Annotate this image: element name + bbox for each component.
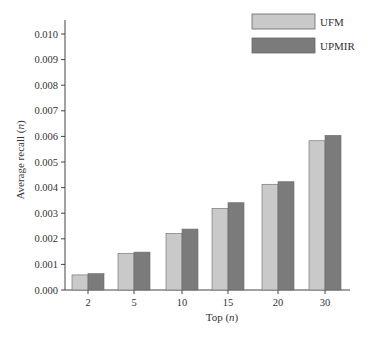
bar-ufm-15 [212, 208, 228, 290]
bar-ufm-2 [72, 275, 88, 290]
bar-upmir-20 [278, 182, 294, 290]
bar-upmir-15 [228, 203, 244, 290]
bar-ufm-20 [262, 184, 278, 290]
y-tick-label: 0.004 [34, 182, 58, 193]
legend-label: UPMIR [320, 40, 356, 52]
chart-canvas: 0.0000.0010.0020.0030.0040.0050.0060.007… [0, 0, 368, 338]
y-axis-label: Average recall (n) [14, 120, 27, 200]
bar-upmir-10 [182, 229, 198, 290]
bar-upmir-5 [134, 252, 150, 290]
y-tick-label: 0.001 [34, 259, 58, 270]
legend-label: UFM [320, 16, 344, 28]
bar-ufm-30 [309, 141, 325, 290]
bar-upmir-30 [325, 135, 341, 290]
bar-ufm-10 [166, 233, 182, 290]
legend: UFMUPMIR [252, 14, 356, 53]
x-tick-label: 5 [131, 297, 136, 308]
x-axis: 2510152030 [65, 290, 350, 308]
x-axis-label: Top (n) [206, 311, 239, 324]
y-tick-label: 0.006 [34, 131, 58, 142]
y-tick-label: 0.010 [34, 29, 58, 40]
bar-upmir-2 [88, 274, 104, 290]
x-tick-label: 20 [273, 297, 284, 308]
x-tick-label: 30 [320, 297, 331, 308]
y-tick-label: 0.008 [34, 80, 58, 91]
x-tick-label: 15 [223, 297, 234, 308]
y-tick-label: 0.000 [34, 285, 58, 296]
bar-chart: 0.0000.0010.0020.0030.0040.0050.0060.007… [0, 0, 368, 338]
y-tick-label: 0.005 [34, 157, 58, 168]
legend-swatch [252, 14, 315, 29]
y-tick-label: 0.002 [34, 233, 58, 244]
legend-swatch [252, 38, 315, 53]
y-tick-label: 0.003 [34, 208, 58, 219]
y-tick-label: 0.007 [34, 105, 58, 116]
x-tick-label: 2 [85, 297, 90, 308]
y-axis: 0.0000.0010.0020.0030.0040.0050.0060.007… [34, 20, 65, 296]
x-tick-label: 10 [177, 297, 188, 308]
bar-series [72, 135, 341, 290]
bar-ufm-5 [118, 253, 134, 290]
y-tick-label: 0.009 [34, 54, 58, 65]
